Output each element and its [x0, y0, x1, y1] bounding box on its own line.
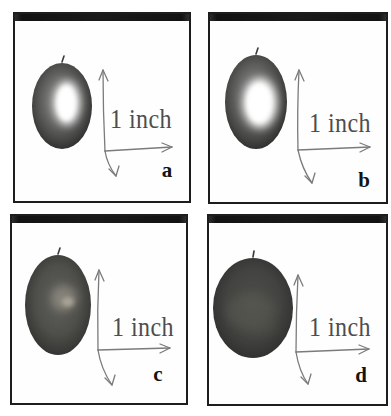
scale-label-a: 1 inch: [110, 103, 172, 134]
fruit-photo-c: [25, 248, 91, 355]
scale-label-c: 1 inch: [112, 311, 174, 342]
panel-b: 1 inch b: [208, 12, 388, 204]
scale-label-d: 1 inch: [309, 311, 371, 342]
panel-letter-d: d: [355, 363, 367, 387]
fruit-photo-b: [225, 48, 287, 149]
fruit-stem-b: [256, 48, 258, 54]
panel-d: 1 inch d: [207, 214, 388, 406]
panel-letter-c: c: [153, 362, 162, 386]
fruit-stem-d: [253, 251, 254, 257]
panel-d-top-bar: [209, 216, 386, 223]
panel-c-top-bar: [12, 216, 186, 223]
fruit-stem-a: [62, 56, 64, 62]
fruit-stem-c: [58, 248, 60, 254]
panel-letter-b: b: [358, 168, 370, 192]
panel-c: 1 inch c: [10, 214, 188, 405]
panel-a-top-bar: [15, 14, 189, 21]
panel-letter-a: a: [162, 158, 173, 182]
scale-label-b: 1 inch: [309, 107, 371, 138]
figure-fruit-growth-panels: 1 inch a 1 inch b: [0, 0, 391, 416]
panel-d-artwork: 1 inch d: [209, 223, 386, 404]
panel-a-artwork: 1 inch a: [15, 21, 189, 201]
panel-b-artwork: 1 inch b: [210, 21, 386, 202]
panel-c-artwork: 1 inch c: [12, 223, 186, 403]
fruit-photo-d: [213, 251, 293, 358]
fruit-photo-a: [32, 56, 92, 149]
panel-a: 1 inch a: [13, 12, 191, 203]
panel-b-top-bar: [210, 14, 386, 21]
